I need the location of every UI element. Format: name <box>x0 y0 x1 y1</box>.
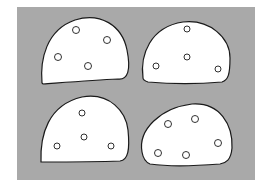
diagram-canvas <box>0 0 267 192</box>
